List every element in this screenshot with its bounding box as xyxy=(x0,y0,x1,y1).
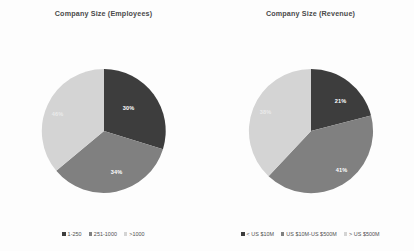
pie-svg-revenue xyxy=(248,68,374,194)
pie-body-employees xyxy=(41,68,167,194)
legend-item-lt-10m[interactable]: < US $10M xyxy=(241,231,274,237)
pie-chart-employees: 30% 34% 46% xyxy=(41,68,167,194)
legend-item-1-250[interactable]: 1-250 xyxy=(62,231,81,237)
pie-label-lt-10m: 21% xyxy=(335,98,347,104)
legend-label-gt-500m: > US $500M xyxy=(349,231,380,237)
legend-label-gt1000: >1000 xyxy=(129,231,144,237)
legend-swatch-icon-lt-10m xyxy=(241,232,244,235)
chart-panel-employees: Company Size (Employees) 30% 34% 46% 1-2 xyxy=(0,0,207,251)
pie-label-1-250: 30% xyxy=(123,105,135,111)
legend-swatch-icon-10m-500m xyxy=(281,232,284,235)
chart-page: Company Size (Employees) 30% 34% 46% 1-2 xyxy=(0,0,414,251)
pie-label-251-1000: 34% xyxy=(111,169,123,175)
pie-label-gt-500m: 38% xyxy=(260,109,272,115)
pie-label-gt1000: 46% xyxy=(52,111,64,117)
chart-panel-revenue: Company Size (Revenue) 21% 41% 38% < US xyxy=(207,0,414,251)
pie-svg-employees xyxy=(41,68,167,194)
pie-body-revenue xyxy=(248,68,374,194)
pie-label-10m-500m: 41% xyxy=(336,167,348,173)
page-title-employees: Company Size (Employees) xyxy=(0,9,207,18)
legend-label-251-1000: 251-1000 xyxy=(94,231,117,237)
legend-revenue: < US $10M US $10M-US $500M > US $500M xyxy=(207,231,414,237)
legend-swatch-icon-gt-500m xyxy=(344,232,347,235)
legend-employees: 1-250 251-1000 >1000 xyxy=(0,231,207,237)
legend-item-10m-500m[interactable]: US $10M-US $500M xyxy=(281,231,337,237)
legend-label-10m-500m: US $10M-US $500M xyxy=(286,231,337,237)
legend-swatch-icon-1-250 xyxy=(62,232,65,235)
legend-item-gt1000[interactable]: >1000 xyxy=(124,231,145,237)
legend-swatch-icon-251-1000 xyxy=(89,232,92,235)
page-title-revenue: Company Size (Revenue) xyxy=(207,9,414,18)
legend-item-gt-500m[interactable]: > US $500M xyxy=(344,231,380,237)
legend-label-1-250: 1-250 xyxy=(68,231,82,237)
legend-swatch-icon-gt1000 xyxy=(124,232,127,235)
legend-item-251-1000[interactable]: 251-1000 xyxy=(89,231,117,237)
pie-chart-revenue: 21% 41% 38% xyxy=(248,68,374,194)
legend-label-lt-10m: < US $10M xyxy=(247,231,275,237)
